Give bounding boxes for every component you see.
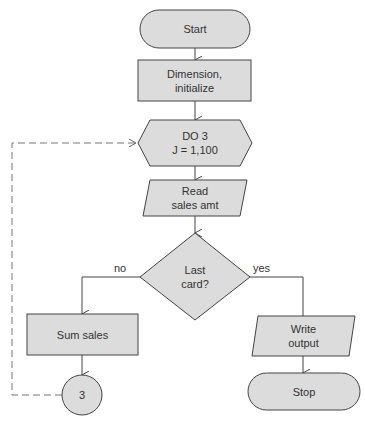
connector-label: 3	[62, 375, 102, 415]
edge-label-no: no	[114, 262, 126, 274]
start-label: Start	[140, 10, 250, 48]
decision-label: Last card?	[140, 233, 250, 320]
stop-label: Stop	[248, 373, 360, 410]
edge-decision-no	[82, 277, 140, 314]
read-label: Read sales amt	[143, 180, 247, 216]
init-label: Dimension, initialize	[138, 60, 251, 101]
edge-label-yes: yes	[253, 262, 270, 274]
write-label: Write output	[252, 316, 355, 356]
loop-label: DO 3 J = 1,100	[138, 120, 252, 166]
edge-decision-yes	[250, 277, 303, 316]
sum-label: Sum sales	[27, 314, 138, 355]
